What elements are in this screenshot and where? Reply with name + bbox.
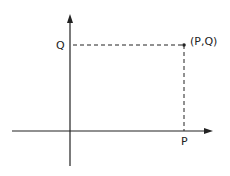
x-axis-arrow-icon [204,128,213,134]
point-label: (P,Q) [190,35,217,48]
y-axis-label: Q [56,39,65,52]
y-axis-arrow-icon [67,14,73,23]
coordinate-diagram: Q P (P,Q) [0,0,230,176]
x-axis-label: P [181,135,188,148]
point-marker [182,43,186,47]
